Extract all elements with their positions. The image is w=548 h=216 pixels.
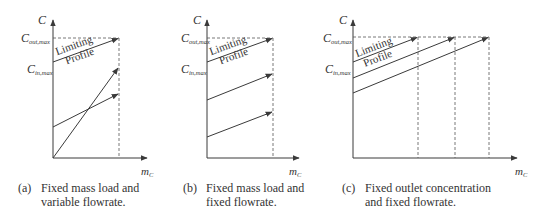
caption-text: Fixed mass load and variable flowrate. xyxy=(41,181,139,209)
panel-b: C Cout,max Cin,max Limiting Profile mC xyxy=(181,13,302,178)
x-axis-label: mC xyxy=(289,165,302,178)
operating-line-steep xyxy=(53,68,118,158)
caption-line-1: Fixed mass load and xyxy=(41,181,139,195)
caption-line-2: and fixed flowrate. xyxy=(365,195,491,209)
c-in-max-label: Cin,max xyxy=(27,62,53,76)
y-axis-label: C xyxy=(193,13,202,27)
panel-a: C Cout,max Cin,max Limiting Profile mC xyxy=(21,13,154,178)
c-in-max-label: Cin,max xyxy=(325,62,351,76)
c-in-max-label: Cin,max xyxy=(181,62,207,76)
operating-line-low xyxy=(207,112,272,137)
panel-c: C Cout,max Cin,max Limiting Profile mC xyxy=(323,13,528,178)
caption-line-1: Fixed outlet concentration xyxy=(365,181,491,195)
c-out-max-label: Cout,max xyxy=(181,31,210,45)
caption-line-2: variable flowrate. xyxy=(41,195,139,209)
c-out-max-label: Cout,max xyxy=(21,31,50,45)
x-axis-label: mC xyxy=(515,165,528,178)
caption-line-1: Fixed mass load and xyxy=(206,181,304,195)
operating-line-shallow xyxy=(53,94,118,127)
caption-line-2: fixed flowrate. xyxy=(206,195,304,209)
caption-text: Fixed outlet concentration and fixed flo… xyxy=(365,181,491,209)
y-axis-label: C xyxy=(38,13,47,27)
caption-tag: (c) xyxy=(342,181,355,195)
caption-text: Fixed mass load and fixed flowrate. xyxy=(206,181,304,209)
c-out-max-label: Cout,max xyxy=(323,31,352,45)
operating-line-mid xyxy=(207,74,272,100)
y-axis-label: C xyxy=(339,13,348,27)
caption-tag: (b) xyxy=(183,181,197,195)
caption-tag: (a) xyxy=(18,181,31,195)
x-axis-label: mC xyxy=(141,165,154,178)
